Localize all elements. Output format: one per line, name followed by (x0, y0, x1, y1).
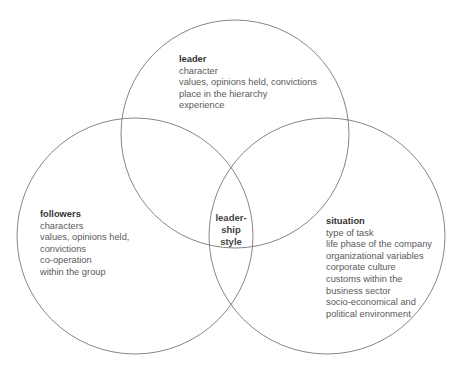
leadership-style-label: leader- ship style (212, 212, 250, 248)
situation-line: customs within the (326, 274, 432, 286)
situation-block: situation type of task life phase of the… (326, 216, 432, 320)
situation-line: business sector (326, 286, 432, 298)
situation-line: corporate culture (326, 262, 432, 274)
center-line: style (212, 236, 250, 248)
center-line: leader- (212, 212, 250, 224)
followers-title: followers (40, 209, 129, 221)
followers-block: followers characters values, opinions he… (40, 209, 129, 279)
situation-line: life phase of the company (326, 239, 432, 251)
leader-line: character (179, 66, 317, 78)
situation-line: political environment (326, 309, 432, 321)
situation-line: organizational variables (326, 251, 432, 263)
followers-line: characters (40, 221, 129, 233)
leader-line: place in the hierarchy (179, 89, 317, 101)
followers-line: co-operation (40, 255, 129, 267)
leader-line: values, opinions held, convictions (179, 77, 317, 89)
situation-line: socio-economical and (326, 297, 432, 309)
leader-block: leader character values, opinions held, … (179, 54, 317, 112)
situation-line: type of task (326, 228, 432, 240)
leader-line: experience (179, 100, 317, 112)
leader-title: leader (179, 54, 317, 66)
center-line: ship (212, 224, 250, 236)
followers-line: convictions (40, 244, 129, 256)
followers-line: values, opinions held, (40, 232, 129, 244)
situation-title: situation (326, 216, 432, 228)
followers-line: within the group (40, 267, 129, 279)
